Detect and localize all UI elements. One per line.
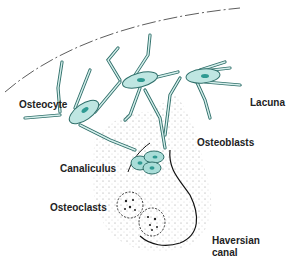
label-lacuna: Lacuna	[250, 97, 285, 108]
label-canal: canal	[212, 247, 238, 258]
bone-tissue-diagram: Osteocyte Lacuna Osteoblasts Canaliculus…	[0, 0, 302, 266]
label-osteoclasts: Osteoclasts	[50, 202, 107, 213]
diagram-artwork	[0, 0, 302, 266]
label-osteocyte: Osteocyte	[19, 99, 67, 110]
label-osteoblasts: Osteoblasts	[197, 137, 254, 148]
label-haversian: Haversian	[212, 235, 260, 246]
label-canaliculus: Canaliculus	[60, 163, 116, 174]
